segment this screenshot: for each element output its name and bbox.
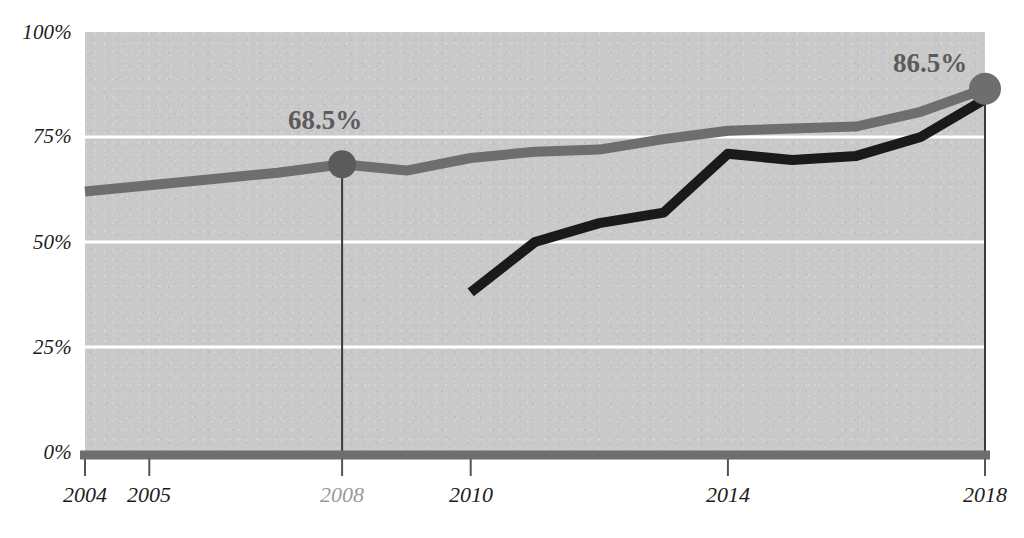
x-axis-label-2014: 2014 [684, 482, 772, 508]
y-axis-label-75: 75% [0, 124, 72, 149]
value-label-2008: 68.5% [288, 105, 362, 136]
x-axis-label-2008: 2008 [298, 482, 386, 508]
cropped-header-strip [0, 0, 1024, 14]
x-axis-ticks [85, 459, 985, 476]
marker-dot-2008[interactable] [328, 150, 356, 178]
series-gray-line [85, 89, 985, 192]
value-label-2018: 86.5% [893, 48, 967, 79]
y-axis-label-100: 100% [0, 20, 72, 45]
marker-dot-2018[interactable] [969, 73, 1001, 105]
y-axis-label-25: 25% [0, 335, 72, 360]
x-axis-label-2005: 2005 [105, 482, 193, 508]
x-axis-label-2010: 2010 [427, 482, 515, 508]
y-axis-label-0: 0% [0, 440, 72, 465]
x-axis-label-2018: 2018 [941, 482, 1024, 508]
chart-root: 100% 75% 50% 25% 0% 2004 2005 2008 2010 … [0, 0, 1024, 538]
y-axis-label-50: 50% [0, 230, 72, 255]
chart-canvas [0, 0, 1024, 538]
